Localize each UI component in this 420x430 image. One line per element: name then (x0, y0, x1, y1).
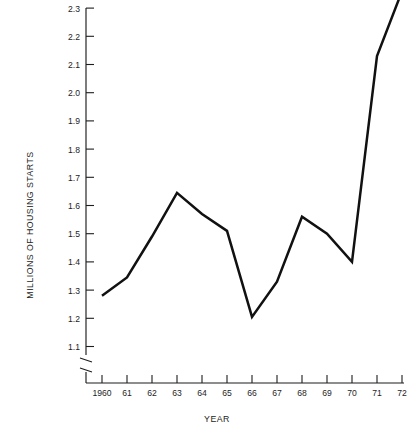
x-tick-label: 67 (272, 388, 282, 398)
data-line-housing-starts (102, 0, 402, 317)
y-tick-label: 1.7 (68, 173, 80, 183)
x-tick-label: 72 (397, 388, 407, 398)
y-tick-label: 2.1 (68, 60, 80, 70)
y-tick-label: 1.5 (68, 229, 80, 239)
x-axis-title: YEAR (204, 414, 230, 424)
y-tick-label: 1.2 (68, 314, 80, 324)
y-tick-label: 1.6 (68, 201, 80, 211)
y-axis-break-icon (80, 358, 92, 372)
y-tick-label: 2.3 (68, 4, 80, 14)
y-tick-label: 2.2 (68, 32, 80, 42)
y-tick-label: 1.8 (68, 145, 80, 155)
x-tick-label: 66 (247, 388, 257, 398)
x-tick-label: 61 (122, 388, 132, 398)
x-tick-label: 65 (222, 388, 232, 398)
y-tick-label: 1.1 (68, 342, 80, 352)
x-tick-label: 63 (172, 388, 182, 398)
x-tick-label: 1960 (92, 388, 111, 398)
y-tick-label: 2.0 (68, 88, 80, 98)
x-tick-label: 70 (347, 388, 357, 398)
y-tick-label: 1.4 (68, 257, 80, 267)
y-axis-ticks: 1.1 1.2 1.3 1.4 1.5 1.6 1.7 1.8 1.9 2.0 … (68, 4, 94, 352)
x-tick-label: 62 (147, 388, 157, 398)
housing-starts-line-chart: MILLIONS OF HOUSING STARTS 1.1 1.2 1.3 1… (0, 0, 420, 430)
x-tick-label: 68 (297, 388, 307, 398)
y-axis-title: MILLIONS OF HOUSING STARTS (25, 151, 35, 298)
y-tick-label: 1.9 (68, 116, 80, 126)
x-axis-ticks: 1960 61 62 63 64 65 66 67 68 69 70 71 (92, 375, 407, 398)
chart-canvas: MILLIONS OF HOUSING STARTS 1.1 1.2 1.3 1… (0, 0, 420, 430)
x-tick-label: 64 (197, 388, 207, 398)
x-tick-label: 71 (372, 388, 382, 398)
x-tick-label: 69 (322, 388, 332, 398)
y-tick-label: 1.3 (68, 286, 80, 296)
